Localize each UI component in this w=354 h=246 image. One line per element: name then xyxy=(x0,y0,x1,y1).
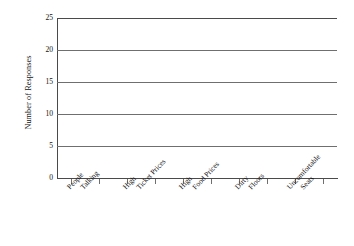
gridline-5 xyxy=(57,146,337,147)
y-axis-title: Number of Responses xyxy=(24,13,33,173)
x-tick-mark xyxy=(211,179,212,184)
y-tick-label-5: 5 xyxy=(49,142,53,150)
bar-chart: Number of Responses 25 20 15 10 5 0 xyxy=(0,0,354,246)
gridline-10 xyxy=(57,114,337,115)
y-tick-label-0: 0 xyxy=(49,174,53,182)
gridline-20 xyxy=(57,50,337,51)
y-tick-label-20: 20 xyxy=(45,46,53,54)
gridline-25 xyxy=(57,18,337,19)
plot-area: 25 20 15 10 5 0 People Talking Hi xyxy=(57,18,337,178)
x-axis-labels: People Talking High Ticket Prices High F… xyxy=(57,185,337,246)
x-tick-mark xyxy=(155,179,156,184)
x-tick-mark xyxy=(267,179,268,184)
y-tick-label-25: 25 xyxy=(45,14,53,22)
x-tick-mark xyxy=(99,179,100,184)
y-tick-label-10: 10 xyxy=(45,110,53,118)
x-tick-mark xyxy=(323,179,324,184)
gridline-15 xyxy=(57,82,337,83)
y-axis-line xyxy=(57,18,58,179)
y-tick-label-15: 15 xyxy=(45,78,53,86)
